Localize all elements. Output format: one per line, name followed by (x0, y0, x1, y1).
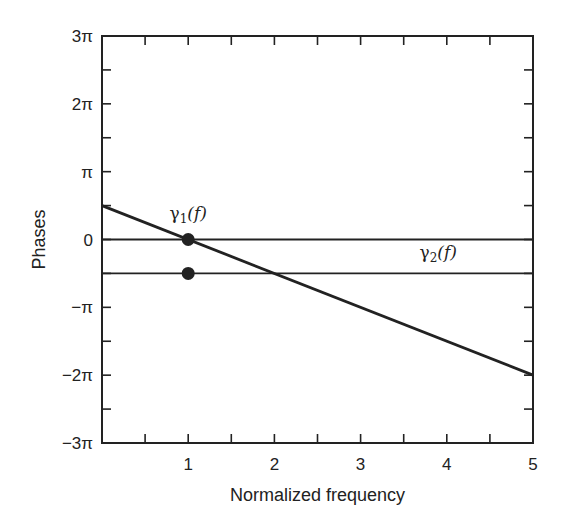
curve-label: γ2(f) (419, 242, 456, 265)
y-axis-title: Phases (29, 209, 49, 269)
y-tick-label: −π (71, 298, 93, 317)
curve-label: γ1(f) (170, 203, 207, 226)
x-tick-label: 1 (183, 455, 192, 474)
curve-annotations: γ1(f)γ2(f) (170, 203, 457, 265)
phase-chart: 3π2ππ0−π−2π−3π 12345 γ1(f)γ2(f) Normaliz… (0, 0, 567, 523)
x-tick-label: 5 (528, 455, 537, 474)
y-tick-labels: 3π2ππ0−π−2π−3π (62, 27, 93, 453)
data-point-marker (182, 233, 195, 246)
series-linear-phase (102, 206, 533, 376)
data-points (182, 233, 195, 280)
y-tick-label: π (81, 163, 93, 182)
x-tick-labels: 12345 (183, 455, 537, 474)
y-tick-label: 0 (84, 231, 93, 250)
y-tick-label: −2π (62, 366, 93, 385)
x-axis-title: Normalized frequency (230, 485, 405, 505)
data-point-marker (182, 267, 195, 280)
y-tick-label: 2π (72, 95, 93, 114)
x-tick-label: 3 (356, 455, 365, 474)
x-tick-label: 2 (270, 455, 279, 474)
series-lines (102, 206, 533, 376)
y-tick-label: −3π (62, 434, 93, 453)
y-tick-label: 3π (72, 27, 93, 46)
x-tick-label: 4 (442, 455, 451, 474)
